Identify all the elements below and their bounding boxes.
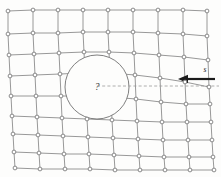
lattice-edge [60,74,61,96]
lattice-edge [186,104,187,122]
lattice-node [156,8,160,12]
lattice-edge [134,53,159,55]
lattice-edge [114,155,139,156]
lattice-edge [37,117,38,135]
lattice-node [6,9,10,13]
lattice-edge [10,75,35,76]
lattice-node [61,134,65,138]
lattice-node [13,166,17,170]
lattice-edge [185,82,186,104]
lattice-edge [163,140,164,157]
lattice-node [6,32,10,36]
lattice-node [82,50,86,54]
lattice-edge [208,60,209,87]
lattice-node [7,53,11,57]
lattice-edge [62,118,63,136]
lattice-edge [11,96,12,116]
lattice-edge [88,137,89,154]
lattice-edge [159,55,184,57]
lattice-edge [183,10,207,11]
lattice-node [36,133,40,137]
lattice-edge [13,134,38,135]
lattice-node [212,168,216,172]
lattice-edge [87,119,88,137]
lattice-edge [112,120,137,121]
lattice-edge [112,120,113,138]
lattice-edge [210,104,211,122]
lattice-node [205,9,209,13]
lattice-edge [58,33,59,53]
lattice-edge [34,54,35,75]
lattice-edge [212,140,213,157]
lattice-node [207,85,211,89]
lattice-node [106,30,110,34]
lattice-node [206,58,210,62]
lattice-node [163,168,167,172]
lattice-node [31,8,35,12]
lattice-edge [161,102,162,122]
lattice-edge [14,152,39,153]
lattice-node [31,31,35,35]
lattice-node [33,73,37,77]
lattice-diagram: ? s [0,0,221,177]
lattice-edge [184,57,208,60]
lattice-node [136,137,140,141]
lattice-edge [137,121,138,139]
lattice-node [205,34,209,38]
lattice-edge [113,138,138,139]
lattice-node [159,100,163,104]
lattice-node [138,168,142,172]
lattice-node [135,119,139,123]
lattice-edge [183,34,184,57]
lattice-edge [158,33,159,55]
load-label: s [204,65,207,74]
lattice-node [57,51,61,55]
lattice-node [134,97,138,101]
lattice-edge [158,33,183,34]
lattice-node [37,151,41,155]
lattice-edge [188,140,189,157]
lattice-node [160,120,164,124]
lattice-node [34,94,38,98]
lattice-edge [10,76,11,96]
lattice-edge [8,10,33,11]
lattice-edge [113,138,114,155]
lattice-edge [211,122,212,140]
lattice-edge [12,116,37,117]
lattice-node [81,30,85,34]
figure-root: ? s [0,0,221,177]
lattice-edge [133,32,134,53]
lattice-node [85,117,89,121]
inclusion-label: ? [95,82,100,92]
lattice-edge [12,116,13,134]
lattice-edge [138,139,139,156]
lattice-node [12,150,16,154]
lattice-node [162,155,166,159]
lattice-node [62,152,66,156]
lattice-edge [39,153,40,169]
lattice-node [211,155,215,159]
lattice-node [210,138,214,142]
lattice-node [187,155,191,159]
lattice-edge [59,53,60,74]
lattice-edge [138,139,163,140]
lattice-node [59,94,63,98]
lattice-edge [38,135,39,153]
lattice-node [186,138,190,142]
lattice-edge [209,87,210,104]
lattice-node [58,72,62,76]
lattice-edge [139,156,164,157]
lattice-edge [14,152,15,168]
lattice-edge [183,34,207,36]
lattice-node [56,8,60,12]
lattice-edge [134,53,135,75]
lattice-edge [159,55,160,78]
lattice-edge [136,99,137,121]
lattice-edge [39,153,64,154]
lattice-node [183,80,187,84]
lattice-node [185,120,189,124]
lattice-node [110,118,114,122]
lattice-edge [9,55,10,76]
lattice-node [11,132,15,136]
lattice-node [63,167,67,171]
